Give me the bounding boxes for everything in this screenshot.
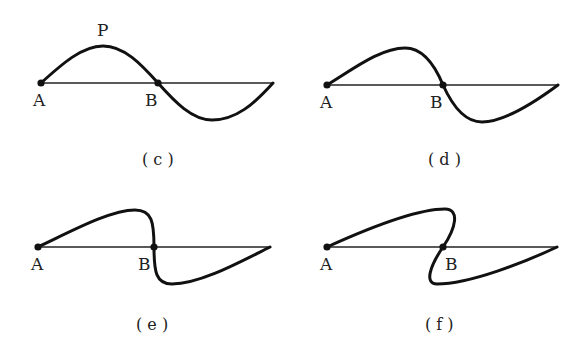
label-a: A (32, 90, 46, 110)
label-a: A (319, 92, 333, 112)
panel-d: A B ( d ) (319, 48, 558, 169)
label-a: A (319, 254, 333, 274)
point-a-marker (34, 243, 41, 250)
label-b: B (430, 92, 443, 112)
point-b-marker (154, 79, 161, 86)
label-b: B (445, 254, 458, 274)
caption-c: ( c ) (142, 150, 174, 169)
point-b-marker (439, 243, 446, 250)
label-a: A (30, 254, 44, 274)
caption-f: ( f ) (425, 315, 454, 334)
caption-d: ( d ) (428, 150, 461, 169)
panel-c: A B P ( c ) (32, 20, 273, 169)
panel-f: A B ( f ) (319, 209, 557, 334)
label-b: B (145, 90, 158, 110)
panel-e: A B ( e ) (30, 210, 270, 334)
point-b-marker (439, 81, 446, 88)
point-a-marker (323, 81, 330, 88)
point-a-marker (323, 243, 330, 250)
diagram-canvas: A B P ( c ) A B ( d ) A B ( e ) A B ( f … (0, 0, 584, 352)
label-p: P (97, 20, 108, 40)
point-a-marker (37, 79, 44, 86)
point-b-marker (150, 243, 157, 250)
label-b: B (138, 254, 151, 274)
caption-e: ( e ) (136, 315, 168, 334)
